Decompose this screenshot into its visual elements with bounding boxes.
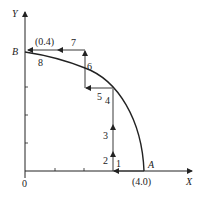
step-label-5: 5	[97, 91, 102, 102]
point-b-label: B	[12, 46, 18, 57]
step-label-1: 1	[116, 158, 121, 169]
step-label-8: 8	[38, 57, 43, 68]
figure-caption	[4, 184, 202, 194]
step-label-4: 4	[105, 95, 110, 106]
step-label-3: 3	[103, 130, 108, 141]
step-label-6: 6	[87, 61, 92, 72]
y-axis	[25, 12, 28, 178]
step-label-2: 2	[103, 155, 108, 166]
curve-a-to-b	[25, 52, 144, 171]
point-a-label: A	[147, 159, 155, 170]
point-b-coord: (0.4)	[35, 36, 54, 48]
y-axis-label: Y	[12, 8, 19, 19]
path-diagram: Y X 0 B (0.4) A (4.0) 1 2 3 4 5 6 7 8	[0, 0, 205, 197]
step-label-7: 7	[71, 37, 76, 48]
x-axis	[25, 168, 192, 171]
